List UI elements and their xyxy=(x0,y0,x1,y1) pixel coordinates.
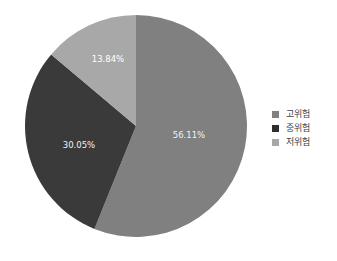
pie-slice-label: 30.05% xyxy=(63,140,95,150)
chart-legend: 고위험중위험저위험 xyxy=(272,107,336,149)
legend-item[interactable]: 중위험 xyxy=(272,121,336,135)
legend-item-label: 고위험 xyxy=(286,109,310,119)
pie-chart-figure: 56.11%30.05%13.84% 고위험중위험저위험 xyxy=(0,0,337,261)
legend-swatch-icon xyxy=(272,111,279,118)
legend-item-label: 저위험 xyxy=(286,137,310,147)
pie-slice-group xyxy=(25,15,247,237)
legend-item[interactable]: 고위험 xyxy=(272,107,336,121)
legend-item[interactable]: 저위험 xyxy=(272,135,336,149)
legend-swatch-icon xyxy=(272,139,279,146)
pie-slice-label: 13.84% xyxy=(92,54,124,64)
legend-item-label: 중위험 xyxy=(286,123,310,133)
legend-swatch-icon xyxy=(272,125,279,132)
pie-slice-label: 56.11% xyxy=(173,130,205,140)
